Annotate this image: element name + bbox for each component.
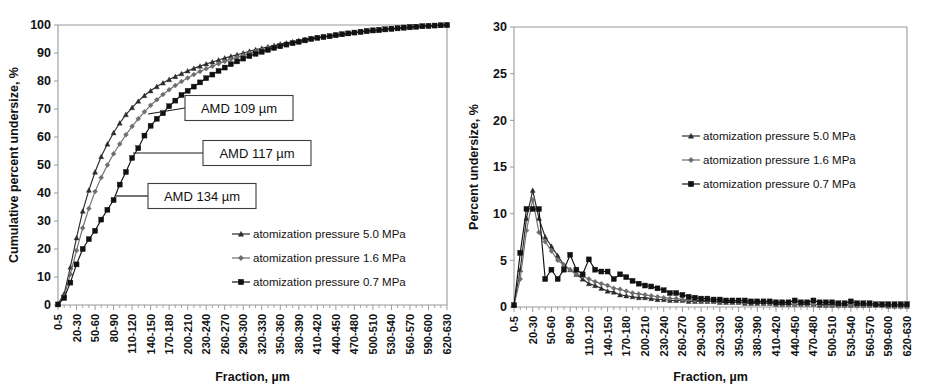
- series-marker-square: [389, 26, 394, 31]
- annotation-2: AMD 117 µm: [133, 141, 311, 166]
- series-marker-square: [407, 24, 412, 29]
- series-marker-square: [247, 54, 252, 59]
- series-marker-square: [686, 294, 691, 299]
- series-marker-diamond: [630, 291, 635, 296]
- series-marker-square: [302, 38, 307, 43]
- legend-label-2: atomization pressure 1.6 MPa: [703, 154, 856, 166]
- series-marker-square: [68, 280, 73, 285]
- legend-label-3: atomization pressure 0.7 MPa: [703, 178, 856, 190]
- series-marker-diamond: [605, 283, 610, 288]
- series-marker-square: [543, 277, 548, 282]
- series-marker-square: [643, 283, 648, 288]
- series-line-1: [514, 190, 907, 306]
- y-tick-label: 40: [37, 186, 51, 200]
- series-marker-diamond: [185, 75, 190, 80]
- series-marker-square: [198, 80, 203, 85]
- x-tick-label: 140-150: [145, 314, 157, 354]
- series-marker-square: [154, 116, 159, 121]
- y-tick-label: 80: [37, 74, 51, 88]
- series-marker-diamond: [210, 64, 215, 69]
- series-marker-diamond: [198, 69, 203, 74]
- series-marker-square: [855, 301, 860, 306]
- series-marker-square: [74, 262, 79, 267]
- x-tick-label: 380-390: [751, 316, 763, 356]
- series-marker-square: [711, 297, 716, 302]
- series-line-3: [514, 209, 907, 305]
- y-axis-title: Percent undersize, %: [467, 104, 481, 230]
- x-tick-label: 320-330: [256, 314, 268, 354]
- y-tick-label: 30: [493, 20, 507, 34]
- series-marker-square: [568, 252, 573, 257]
- series-marker-square: [438, 23, 443, 28]
- series-marker-square: [630, 278, 635, 283]
- series-marker-square: [167, 104, 172, 109]
- series-marker-square: [253, 51, 258, 56]
- y-tick-label: 0: [44, 298, 51, 312]
- series-marker-square: [655, 286, 660, 291]
- series-marker-square: [420, 24, 425, 29]
- series-marker-square: [377, 27, 382, 32]
- series-marker-square: [62, 296, 67, 301]
- series-marker-square: [692, 295, 697, 300]
- x-tick-label: 500-510: [367, 314, 379, 354]
- series-marker-square: [241, 56, 246, 61]
- series-marker-square: [296, 39, 301, 44]
- series-marker-square: [80, 247, 85, 252]
- x-tick-label: 590-600: [882, 316, 894, 356]
- x-tick-label: 560-570: [404, 314, 416, 354]
- y-tick-label: 60: [37, 130, 51, 144]
- legend-label-1: atomization pressure 5.0 MPa: [253, 228, 406, 240]
- series-1: [512, 188, 910, 308]
- series-marker-square: [278, 44, 283, 49]
- series-marker-square: [401, 25, 406, 30]
- x-tick-label: 410-420: [311, 314, 323, 354]
- series-marker-square: [518, 250, 523, 255]
- series-marker-square: [742, 298, 747, 303]
- series-marker-square: [123, 170, 128, 175]
- series-marker-square: [830, 300, 835, 305]
- x-tick-label: 320-330: [714, 316, 726, 356]
- series-marker-square: [536, 207, 541, 212]
- series-marker-square: [130, 156, 135, 161]
- x-tick-label: 290-300: [695, 316, 707, 356]
- series-marker-triangle: [530, 188, 535, 193]
- x-tick-label: 80-90: [564, 316, 576, 344]
- series-marker-square: [611, 277, 616, 282]
- chart-svg-percent-undersize: 0510152025300-520-3050-6080-90110-120140…: [464, 0, 928, 392]
- x-tick-label: 500-510: [826, 316, 838, 356]
- series-marker-triangle: [99, 154, 104, 159]
- series-marker-square: [792, 298, 797, 303]
- series-marker-square: [383, 27, 388, 32]
- series-marker-square: [321, 35, 326, 40]
- series-marker-triangle: [536, 216, 541, 221]
- x-tick-label: 110-120: [583, 316, 595, 356]
- series-marker-square: [898, 302, 903, 307]
- series-marker-square: [136, 146, 141, 151]
- series-marker-square: [688, 181, 693, 186]
- series-marker-diamond: [586, 277, 591, 282]
- series-marker-square: [395, 26, 400, 31]
- x-tick-label: 350-360: [733, 316, 745, 356]
- series-marker-square: [235, 59, 240, 64]
- series-marker-square: [842, 301, 847, 306]
- series-marker-diamond: [86, 206, 91, 211]
- series-marker-diamond: [624, 289, 629, 294]
- annotation-label-2: AMD 117 µm: [219, 146, 294, 161]
- series-line-2: [514, 200, 907, 306]
- series-marker-square: [755, 299, 760, 304]
- series-marker-diamond: [636, 291, 641, 296]
- series-marker-square: [445, 23, 450, 28]
- x-tick-label: 440-450: [789, 316, 801, 356]
- series-marker-square: [574, 267, 579, 272]
- series-marker-square: [93, 228, 98, 233]
- y-tick-label: 5: [500, 254, 507, 268]
- x-tick-label: 200-210: [182, 314, 194, 354]
- series-marker-square: [173, 98, 178, 103]
- series-marker-square: [605, 269, 610, 274]
- series-marker-square: [216, 68, 221, 73]
- series-marker-square: [284, 42, 289, 47]
- x-tick-label: 80-90: [108, 314, 120, 342]
- series-marker-diamond: [204, 66, 209, 71]
- x-tick-label: 260-270: [219, 314, 231, 354]
- y-tick-label: 10: [493, 207, 507, 221]
